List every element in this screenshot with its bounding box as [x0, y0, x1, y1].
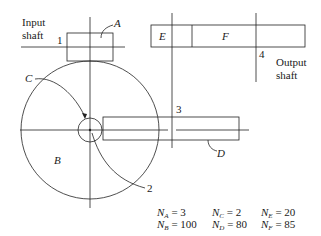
gear-E-label: E: [159, 31, 166, 42]
gear-D-label: D: [217, 148, 225, 159]
gear-D-box: [103, 117, 239, 140]
shaft-3-label: 3: [176, 104, 182, 115]
shaft-2-label: 2: [147, 183, 153, 194]
shaft-4-label: 4: [259, 49, 265, 60]
input-shaft-label-2: shaft: [22, 30, 43, 41]
leader-2: [92, 133, 145, 188]
gear-F-label: F: [222, 31, 229, 42]
output-shaft-label-2: shaft: [276, 70, 297, 81]
leader-C: [35, 79, 85, 117]
leader-A: [101, 25, 113, 38]
gear-C-label: C: [25, 73, 32, 84]
gear-B-label: B: [54, 155, 61, 166]
teeth-B: NB = 100: [157, 218, 197, 232]
shaft-1-label: 1: [57, 35, 63, 46]
leader-D: [208, 140, 217, 151]
input-shaft-label: Input: [22, 17, 45, 28]
teeth-F: NF = 85: [261, 218, 295, 232]
gear-A-label: A: [114, 18, 121, 29]
teeth-D: ND = 80: [212, 218, 247, 232]
output-shaft-label: Output: [276, 57, 307, 68]
